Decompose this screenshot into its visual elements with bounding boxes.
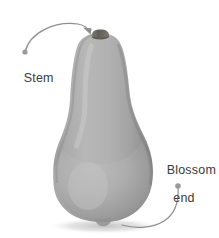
annotation-label-blossom-end-line1: Blossom [167, 163, 216, 177]
annotation-label-blossom-end-line2: end [150, 191, 218, 205]
squash-anatomy-figure: Stem Blossom end [0, 0, 219, 238]
stem-leader-arrowhead [83, 28, 91, 35]
stem-leader [22, 24, 91, 55]
annotation-label-stem-text: Stem [24, 71, 54, 85]
stem-leader-dot [22, 49, 27, 54]
annotation-label-stem: Stem [9, 57, 54, 99]
stem-leader-line [25, 24, 90, 52]
annotation-label-blossom-end: Blossom end [150, 149, 218, 233]
